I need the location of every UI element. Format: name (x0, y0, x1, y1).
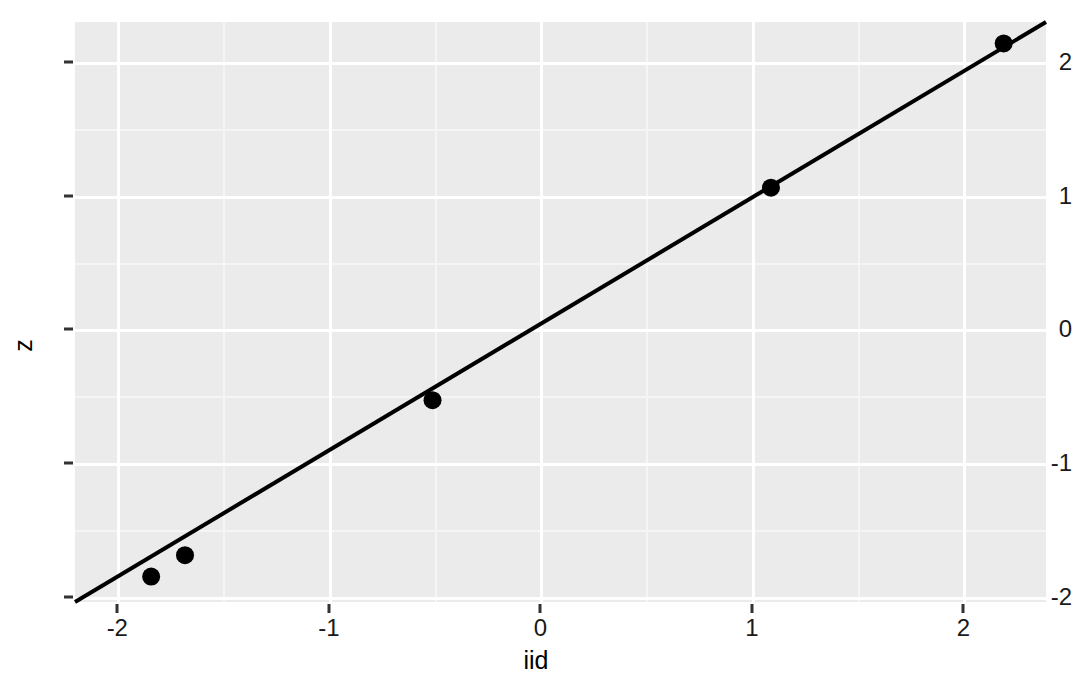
x-tick-mark (750, 604, 753, 613)
y-axis-title-text: z (9, 339, 38, 352)
y-tick-label: 1 (1026, 182, 1072, 210)
data-point (424, 391, 442, 409)
x-tick-label: -2 (107, 614, 128, 642)
y-tick-label: -1 (1026, 449, 1072, 477)
y-tick-mark (64, 61, 73, 64)
plot-data-layer (0, 0, 1072, 691)
data-point (762, 179, 780, 197)
x-tick-label: 2 (957, 614, 970, 642)
qq-plot-figure: -2-1012 -2-1012 z iid (0, 0, 1072, 691)
y-tick-label: 0 (1026, 315, 1072, 343)
x-tick-label: 1 (745, 614, 758, 642)
data-point (142, 568, 160, 586)
x-tick-label: 0 (534, 614, 547, 642)
y-tick-label: 2 (1026, 48, 1072, 76)
x-tick-mark (539, 604, 542, 613)
data-point (995, 34, 1013, 52)
x-tick-label: -1 (318, 614, 339, 642)
x-tick-mark (116, 604, 119, 613)
x-tick-mark (327, 604, 330, 613)
data-point (176, 546, 194, 564)
x-tick-mark (962, 604, 965, 613)
y-tick-mark (64, 595, 73, 598)
y-tick-mark (64, 194, 73, 197)
x-axis-title: iid (0, 646, 1072, 675)
y-tick-mark (64, 462, 73, 465)
y-tick-label: -2 (1026, 583, 1072, 611)
y-tick-mark (64, 328, 73, 331)
y-axis-title: z (0, 0, 46, 691)
reference-line (75, 22, 1046, 602)
